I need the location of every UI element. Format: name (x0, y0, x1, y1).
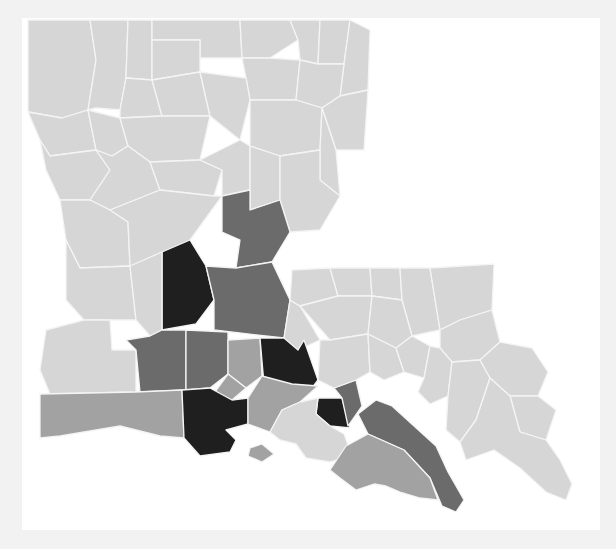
parish-st-landry (206, 262, 290, 338)
parish-ouachita (242, 58, 300, 100)
parish-iberville (318, 334, 370, 388)
parish-union (240, 20, 298, 58)
parish-st-helena (370, 268, 402, 300)
parish-east-feliciana (330, 268, 372, 296)
parish-caddo (28, 20, 96, 118)
parish-evangeline (162, 240, 214, 330)
parish-allen (130, 252, 162, 336)
parish-st-mary-island (248, 444, 274, 462)
parish-cameron (40, 390, 184, 438)
parish-catahoula (250, 146, 280, 210)
parish-webster (126, 20, 152, 80)
louisiana-parish-choropleth-map (0, 0, 616, 549)
parish-franklin (250, 100, 322, 156)
parish-vermilion (182, 388, 248, 456)
parish-acadia (186, 330, 228, 390)
parish-calcasieu (40, 320, 136, 394)
